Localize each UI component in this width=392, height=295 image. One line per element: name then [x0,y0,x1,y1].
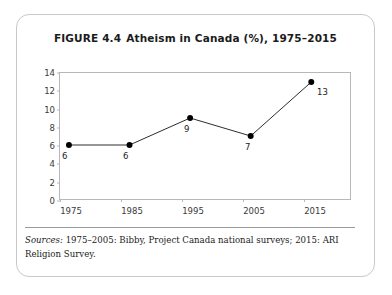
source-text: 1975–2005: Bibby, Project Canada nationa… [25,235,339,259]
y-tick-label-4: 4 [50,159,55,169]
y-tick-label-8: 8 [50,123,55,133]
source-label: Sources: [25,235,63,245]
x-tick-mark-2005 [243,199,244,202]
series-line [60,73,350,199]
data-point-1975 [66,142,72,148]
data-label-1985: 6 [123,151,128,161]
source-note: Sources: 1975–2005: Bibby, Project Canad… [25,234,355,261]
y-tick-label-12: 12 [44,86,55,96]
x-tick-label-1975: 1975 [60,206,82,216]
x-tick-label-1995: 1995 [182,206,204,216]
x-tick-mark-1995 [182,199,183,202]
x-tick-mark-1985 [121,199,122,202]
data-label-1975: 6 [62,151,67,161]
data-label-2005: 7 [245,142,250,152]
data-point-2005 [248,133,254,139]
y-tick-label-6: 6 [50,141,55,151]
data-point-1985 [127,142,133,148]
source-divider [25,227,355,228]
data-label-1995: 9 [184,124,189,134]
data-point-2015 [308,79,314,85]
y-tick-label-0: 0 [50,196,55,206]
plot-frame: 02468101214 19751985199520052015 669713 [59,72,351,200]
y-tick-label-2: 2 [50,178,55,188]
x-tick-label-2005: 2005 [243,206,265,216]
data-label-2015: 13 [317,87,328,97]
x-tick-mark-2015 [304,199,305,202]
x-tick-mark-1975 [60,199,61,202]
series-polyline [69,82,311,145]
y-tick-label-10: 10 [44,105,55,115]
figure-card: FIGURE 4.4Atheism in Canada (%), 1975–20… [16,14,375,277]
y-tick-label-14: 14 [44,68,55,78]
data-point-1995 [187,115,193,121]
x-tick-label-1985: 1985 [121,206,143,216]
x-tick-label-2015: 2015 [304,206,326,216]
